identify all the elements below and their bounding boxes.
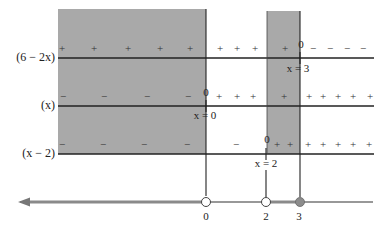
svg-text:−: − bbox=[327, 42, 333, 54]
svg-text:+: + bbox=[367, 90, 373, 102]
zero-marker-x0: 0 bbox=[203, 86, 209, 98]
number-line: 0 2 3 bbox=[18, 198, 373, 223]
svg-text:+: + bbox=[59, 42, 65, 54]
tick-label-3: 3 bbox=[296, 210, 302, 222]
row-label-6-2x: (6 − 2x) bbox=[16, 50, 55, 64]
closed-point-3 bbox=[296, 198, 305, 207]
svg-text:+: + bbox=[250, 90, 256, 102]
svg-text:+: + bbox=[335, 138, 341, 150]
svg-text:+: + bbox=[281, 90, 287, 102]
svg-text:+: + bbox=[274, 138, 280, 150]
arrow-left-icon bbox=[18, 198, 30, 207]
svg-text:−: − bbox=[144, 90, 150, 102]
zero-eq-x3: x = 3 bbox=[287, 62, 310, 74]
svg-text:+: + bbox=[187, 42, 193, 54]
svg-text:−: − bbox=[101, 90, 107, 102]
row-signs-x: − − − − + + + + + + + + + bbox=[60, 90, 373, 102]
zero-eq-x2: x = 2 bbox=[255, 157, 278, 169]
svg-text:+: + bbox=[287, 138, 293, 150]
zero-eq-x0: x = 0 bbox=[194, 109, 217, 121]
svg-text:−: − bbox=[233, 138, 239, 150]
svg-text:+: + bbox=[320, 90, 326, 102]
tick-label-0: 0 bbox=[203, 210, 209, 222]
svg-text:−: − bbox=[360, 42, 366, 54]
zero-marker-x2: 0 bbox=[264, 133, 270, 145]
svg-text:−: − bbox=[184, 138, 190, 150]
svg-text:+: + bbox=[252, 42, 258, 54]
svg-text:−: − bbox=[344, 42, 350, 54]
svg-text:−: − bbox=[100, 138, 106, 150]
svg-text:+: + bbox=[217, 42, 223, 54]
svg-text:−: − bbox=[60, 90, 66, 102]
svg-text:+: + bbox=[366, 138, 372, 150]
svg-text:+: + bbox=[282, 42, 288, 54]
row-label-x-2: (x − 2) bbox=[22, 146, 55, 160]
row-label-x: (x) bbox=[41, 98, 55, 112]
svg-text:−: − bbox=[141, 138, 147, 150]
svg-text:+: + bbox=[234, 90, 240, 102]
zero-marker-x3: 0 bbox=[298, 38, 304, 50]
open-point-2 bbox=[262, 198, 271, 207]
svg-text:+: + bbox=[305, 138, 311, 150]
svg-text:+: + bbox=[350, 138, 356, 150]
svg-text:+: + bbox=[350, 90, 356, 102]
row-signs-x-2: − − − − − + + + + + + + bbox=[59, 138, 372, 150]
svg-text:+: + bbox=[335, 90, 341, 102]
svg-text:+: + bbox=[216, 90, 222, 102]
svg-text:−: − bbox=[59, 138, 65, 150]
svg-text:+: + bbox=[234, 42, 240, 54]
svg-text:+: + bbox=[306, 90, 312, 102]
tick-label-2: 2 bbox=[263, 210, 269, 222]
shaded-region-left bbox=[58, 9, 206, 154]
open-point-0 bbox=[202, 198, 211, 207]
svg-text:+: + bbox=[320, 138, 326, 150]
svg-text:+: + bbox=[91, 42, 97, 54]
shaded-region-strip bbox=[267, 11, 300, 154]
sign-chart: (6 − 2x) (x) (x − 2) + + + + + + + + + −… bbox=[0, 0, 391, 238]
svg-text:+: + bbox=[157, 42, 163, 54]
svg-text:+: + bbox=[125, 42, 131, 54]
svg-text:−: − bbox=[185, 90, 191, 102]
svg-text:−: − bbox=[310, 42, 316, 54]
